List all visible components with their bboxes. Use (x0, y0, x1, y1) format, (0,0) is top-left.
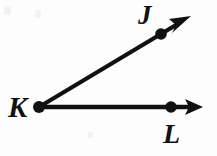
angle-jkl-diagram (0, 0, 217, 156)
point-K-dot (33, 101, 45, 113)
point-label-k: K (8, 93, 27, 122)
point-L-dot (165, 101, 177, 113)
point-label-j: J (138, 2, 152, 29)
point-label-l: L (163, 120, 180, 148)
point-J-dot (155, 28, 167, 40)
angle-figure-container: J K L (0, 0, 217, 156)
ray-KL-group (39, 99, 203, 115)
arrowhead-KJ-icon (169, 16, 191, 33)
ray-KJ-group (39, 16, 191, 107)
